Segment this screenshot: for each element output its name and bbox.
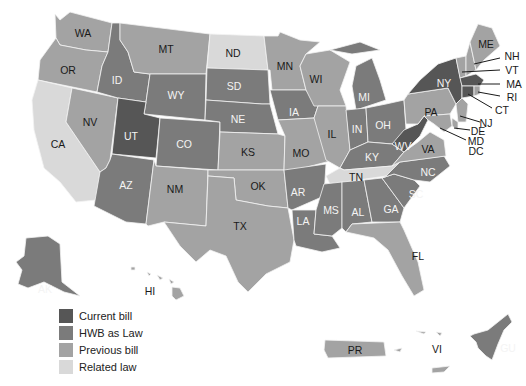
state-label-AK: AK [38, 283, 52, 295]
state-label-SC: SC [409, 188, 424, 200]
state-label-PR: PR [348, 344, 363, 356]
legend-label: Current bill [79, 310, 132, 322]
state-label-ID: ID [112, 74, 123, 86]
legend-item-hwb-as-law: HWB as Law [59, 325, 143, 341]
state-label-ME: ME [478, 38, 494, 50]
state-RI[interactable] [474, 86, 480, 96]
state-label-VI: VI [432, 343, 442, 355]
state-label-KS: KS [241, 146, 255, 158]
leader-MD [440, 128, 466, 140]
state-label-OK: OK [250, 180, 265, 192]
state-label-TN: TN [349, 171, 363, 183]
state-label-OH: OH [375, 119, 391, 131]
state-label-DC: DC [468, 145, 484, 157]
state-label-WI: WI [310, 73, 323, 85]
state-label-MA: MA [506, 78, 522, 90]
legend-swatch-hwb-as-law [59, 326, 73, 340]
state-label-GA: GA [383, 203, 398, 215]
state-label-CO: CO [176, 138, 192, 150]
state-label-CT: CT [495, 104, 510, 116]
state-label-IL: IL [328, 128, 337, 140]
state-label-MN: MN [277, 60, 293, 72]
state-label-TX: TX [233, 220, 246, 232]
state-label-GU: GU [500, 342, 516, 354]
state-label-AR: AR [291, 186, 306, 198]
state-label-HI: HI [145, 285, 156, 297]
state-label-MO: MO [293, 147, 310, 159]
state-label-VA: VA [421, 143, 434, 155]
state-label-FL: FL [412, 250, 424, 262]
legend-item-related-law: Related law [59, 359, 143, 375]
state-label-KY: KY [365, 151, 379, 163]
state-label-IA: IA [289, 106, 299, 118]
state-label-AZ: AZ [119, 179, 133, 191]
legend-swatch-previous-bill [59, 343, 73, 357]
state-label-RI: RI [507, 91, 518, 103]
state-label-NY: NY [437, 77, 452, 89]
state-label-ND: ND [225, 47, 241, 59]
state-label-SD: SD [227, 80, 242, 92]
state-label-CA: CA [51, 138, 66, 150]
state-label-WA: WA [75, 27, 92, 39]
state-label-VT: VT [505, 64, 519, 76]
state-label-PA: PA [424, 106, 437, 118]
legend: Current bill HWB as Law Previous bill Re… [59, 308, 143, 376]
legend-label: Previous bill [79, 344, 138, 356]
legend-swatch-related-law [59, 360, 73, 374]
state-label-UT: UT [124, 130, 139, 142]
legend-label: HWB as Law [79, 327, 143, 339]
state-label-MT: MT [158, 43, 174, 55]
state-label-WV: WV [395, 140, 412, 152]
state-HI[interactable] [131, 267, 184, 300]
state-label-NV: NV [83, 116, 98, 128]
leader-CT [468, 94, 492, 108]
leader-RI [478, 92, 500, 96]
state-label-NM: NM [167, 183, 183, 195]
legend-swatch-current-bill [59, 309, 73, 323]
state-label-NH: NH [504, 50, 519, 62]
legend-item-previous-bill: Previous bill [59, 342, 143, 358]
state-label-IN: IN [352, 123, 363, 135]
state-label-OR: OR [60, 64, 76, 76]
state-label-MI: MI [358, 91, 370, 103]
state-label-NE: NE [231, 113, 246, 125]
state-label-AL: AL [352, 206, 365, 218]
legend-label: Related law [79, 361, 136, 373]
state-PR[interactable] [324, 340, 402, 358]
state-label-LA: LA [297, 215, 310, 227]
state-label-MS: MS [323, 204, 339, 216]
legend-item-current-bill: Current bill [59, 308, 143, 324]
state-label-WY: WY [168, 89, 185, 101]
state-label-NC: NC [420, 166, 436, 178]
